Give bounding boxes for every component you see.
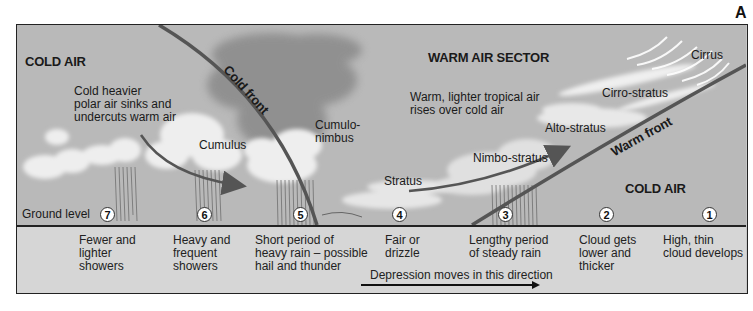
stage-number-5: 5 xyxy=(293,207,308,222)
warm-air-sector-label: WARM AIR SECTOR xyxy=(428,51,549,64)
stage-4-description: Fair ordrizzle xyxy=(385,234,420,260)
stage-number-1: 1 xyxy=(702,207,717,222)
stage-number-2: 2 xyxy=(599,207,614,222)
stage-number-3: 3 xyxy=(498,207,513,222)
warm-air-note: Warm, lighter tropical air rises over co… xyxy=(410,91,540,117)
nimbostratus-label: Nimbo-stratus xyxy=(473,152,548,165)
stage-5-description: Short period ofheavy rain – possiblehail… xyxy=(255,234,368,273)
cumulonimbus-label: Cumulo- nimbus xyxy=(315,119,360,145)
cumulus-label: Cumulus xyxy=(199,139,246,152)
stage-2-description: Cloud getslower andthicker xyxy=(579,234,636,273)
stage-number-7: 7 xyxy=(100,207,115,222)
cirrostratus-label: Cirro-stratus xyxy=(602,87,668,100)
atmosphere-section: COLD AIR WARM AIR SECTOR COLD AIR Cold h… xyxy=(17,25,746,225)
altostratus-label: Alto-stratus xyxy=(545,122,606,135)
direction-arrow-icon xyxy=(361,284,538,286)
stage-number-6: 6 xyxy=(197,207,212,222)
ground-level-label: Ground level xyxy=(22,208,90,221)
cold-air-left-label: COLD AIR xyxy=(25,55,86,68)
stage-6-description: Heavy andfrequentshowers xyxy=(173,234,230,273)
depression-diagram: COLD AIR WARM AIR SECTOR COLD AIR Cold h… xyxy=(16,24,748,294)
cirrus-label: Cirrus xyxy=(691,49,723,62)
direction-label: Depression moves in this direction xyxy=(370,268,553,282)
nimbostratus-cloud xyxy=(437,139,557,195)
cold-air-right-label: COLD AIR xyxy=(625,182,686,195)
stage-3-description: Lengthy periodof steady rain xyxy=(469,234,548,260)
weather-description-strip: Fewer andlightershowers Heavy andfrequen… xyxy=(17,227,746,293)
cold-air-note: Cold heavier polar air sinks and undercu… xyxy=(74,85,176,124)
stage-1-description: High, thincloud develops xyxy=(663,234,743,260)
stratus-label: Stratus xyxy=(384,175,422,188)
figure-letter: A xyxy=(735,4,747,22)
stage-number-4: 4 xyxy=(392,207,407,222)
stage-7-description: Fewer andlightershowers xyxy=(79,234,136,273)
